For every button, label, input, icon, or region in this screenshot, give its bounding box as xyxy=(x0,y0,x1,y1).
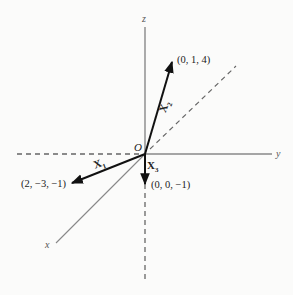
y-axis-label: y xyxy=(276,149,280,159)
vector-x3-label: X3 xyxy=(147,160,158,174)
point-x2-coordinates: (0, 1, 4) xyxy=(177,55,210,66)
x-axis-label: x xyxy=(45,240,49,250)
vector-x1-arrow xyxy=(72,154,145,183)
origin-label: O xyxy=(134,142,142,153)
point-x3-coordinates: (0, 0, −1) xyxy=(151,180,190,191)
z-axis-label: z xyxy=(142,14,146,24)
diagram-canvas xyxy=(0,0,293,295)
vector-diagram: z y x O X1 X2 X3 (2, −3, −1) (0, 1, 4) (… xyxy=(0,0,293,295)
point-x1-coordinates: (2, −3, −1) xyxy=(21,179,66,190)
